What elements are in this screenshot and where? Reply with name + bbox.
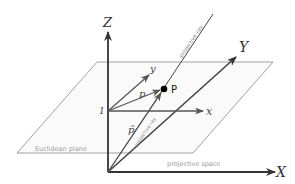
point-p [161, 86, 168, 93]
projective-geometry-diagram: Z X Y projective ray p̃ projective ray 1… [0, 0, 295, 184]
x-axis-label: X [275, 164, 287, 180]
y-axis-label: Y [239, 39, 250, 55]
z-axis-label: Z [102, 15, 113, 30]
point-p-label: P [171, 84, 177, 95]
projective-space-label: projective space [167, 160, 220, 168]
projective-ray-label-top: projective ray [178, 23, 205, 59]
one-label: 1 [99, 106, 105, 116]
small-x-label: x [206, 105, 213, 118]
euclidean-plane-label: Euclidean plane [35, 145, 87, 153]
small-y-label: y [149, 63, 156, 74]
p-tilde-label: p̃ [128, 124, 135, 135]
p-vector-label: p [139, 88, 146, 99]
